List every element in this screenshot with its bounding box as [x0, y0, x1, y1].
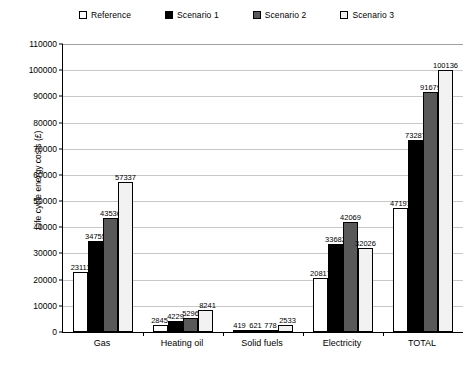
- bar-value-label: 100136: [433, 61, 458, 70]
- bar-group-total: 471917328791679100136: [383, 44, 463, 332]
- bar-value-label: 2845: [151, 316, 168, 325]
- bar-scenario-3[interactable]: 100136: [438, 70, 453, 332]
- x-axis-label-solid-fuels: Solid fuels: [222, 338, 302, 348]
- bar-group-gas: 23111347554353657337: [63, 44, 143, 332]
- legend-item-scenario-1: Scenario 1: [165, 10, 219, 20]
- y-axis-tick-label: 10000: [1, 301, 63, 311]
- y-axis-tick-label: 30000: [1, 248, 63, 258]
- bar-slot: 100136: [438, 44, 453, 332]
- x-axis-label-total: TOTAL: [382, 338, 462, 348]
- legend-label-reference: Reference: [91, 10, 131, 20]
- bar-slot: 23111: [73, 44, 88, 332]
- bar-reference[interactable]: 47191: [393, 208, 408, 332]
- y-axis-tick-label: 50000: [1, 196, 63, 206]
- bar-slot: 8241: [198, 44, 213, 332]
- bar-scenario-1[interactable]: 34755: [88, 241, 103, 332]
- legend-label-scenario-3: Scenario 3: [352, 10, 394, 20]
- bar-scenario-1[interactable]: 4229: [168, 321, 183, 332]
- bar-value-label: 778: [264, 321, 277, 330]
- bar-scenario-3[interactable]: 8241: [198, 310, 213, 332]
- bar-slot: 5296: [183, 44, 198, 332]
- x-axis-label-electricity: Electricity: [302, 338, 382, 348]
- y-axis-tick-label: 100000: [1, 65, 63, 75]
- bar-scenario-1[interactable]: 33682: [328, 244, 343, 332]
- bar-value-label: 32026: [355, 239, 376, 248]
- bar-scenario-2[interactable]: 778: [263, 330, 278, 332]
- bar-slot: 33682: [328, 44, 343, 332]
- y-axis-tick-label: 90000: [1, 91, 63, 101]
- bar-slot: 2533: [278, 44, 293, 332]
- legend-swatch-reference: [79, 11, 87, 19]
- x-axis-label-heating-oil: Heating oil: [142, 338, 222, 348]
- bar-value-label: 419: [233, 321, 246, 330]
- bar-slot: 778: [263, 44, 278, 332]
- bar-slot: 2845: [153, 44, 168, 332]
- bar-slot: 43536: [103, 44, 118, 332]
- legend-item-scenario-3: Scenario 3: [340, 10, 394, 20]
- bar-scenario-3[interactable]: 2533: [278, 325, 293, 332]
- bar-slot: 47191: [393, 44, 408, 332]
- bar-reference[interactable]: 2845: [153, 325, 168, 332]
- bar-group-heating-oil: 2845422952968241: [143, 44, 223, 332]
- bar-value-label: 8241: [199, 301, 216, 310]
- y-axis-tick-label: 20000: [1, 275, 63, 285]
- bar-reference[interactable]: 419: [233, 330, 248, 332]
- bar-value-label: 2533: [279, 316, 296, 325]
- bar-slot: 32026: [358, 44, 373, 332]
- bar-scenario-1[interactable]: 621: [248, 330, 263, 332]
- legend-label-scenario-1: Scenario 1: [177, 10, 219, 20]
- y-axis-tick-label: 40000: [1, 222, 63, 232]
- y-axis-tick-label: 110000: [1, 39, 63, 49]
- y-axis-tick-label: 70000: [1, 144, 63, 154]
- legend-swatch-scenario-2: [253, 11, 261, 19]
- legend-item-reference: Reference: [79, 10, 131, 20]
- bar-slot: 91679: [423, 44, 438, 332]
- bar-slot: 34755: [88, 44, 103, 332]
- chart-legend: Reference Scenario 1 Scenario 2 Scenario…: [0, 10, 473, 30]
- bar-scenario-3[interactable]: 32026: [358, 248, 373, 332]
- bar-value-label: 57337: [115, 173, 136, 182]
- bar-scenario-2[interactable]: 5296: [183, 318, 198, 332]
- bar-slot: 42069: [343, 44, 358, 332]
- y-axis-title: Life cycle energy costs (£): [33, 80, 43, 280]
- bar-slot: 20817: [313, 44, 328, 332]
- bar-slot: 621: [248, 44, 263, 332]
- bar-reference[interactable]: 20817: [313, 278, 328, 333]
- legend-item-scenario-2: Scenario 2: [253, 10, 307, 20]
- bar-group-electricity: 20817336824206932026: [303, 44, 383, 332]
- bar-scenario-2[interactable]: 91679: [423, 92, 438, 332]
- bar-scenario-1[interactable]: 73287: [408, 140, 423, 332]
- x-axis-label-gas: Gas: [62, 338, 142, 348]
- legend-label-scenario-2: Scenario 2: [265, 10, 307, 20]
- legend-swatch-scenario-3: [340, 11, 348, 19]
- legend-swatch-scenario-1: [165, 11, 173, 19]
- bar-slot: 4229: [168, 44, 183, 332]
- bar-slot: 57337: [118, 44, 133, 332]
- bar-value-label: 5296: [182, 309, 199, 318]
- y-axis-tick-label: 60000: [1, 170, 63, 180]
- bar-scenario-3[interactable]: 57337: [118, 182, 133, 332]
- bar-value-label: 621: [249, 321, 262, 330]
- bar-chart: Reference Scenario 1 Scenario 2 Scenario…: [0, 0, 473, 365]
- bar-scenario-2[interactable]: 43536: [103, 218, 118, 332]
- bar-group-solid-fuels: 4196217782533: [223, 44, 303, 332]
- y-axis-tick-label: 0: [1, 327, 63, 337]
- bar-reference[interactable]: 23111: [73, 272, 88, 333]
- plot-area: 0100002000030000400005000060000700008000…: [62, 44, 463, 333]
- y-axis-tick-label: 80000: [1, 118, 63, 128]
- bar-slot: 419: [233, 44, 248, 332]
- x-axis-labels: GasHeating oilSolid fuelsElectricityTOTA…: [62, 338, 462, 348]
- bar-groups: 2311134755435365733728454229529682414196…: [63, 44, 463, 332]
